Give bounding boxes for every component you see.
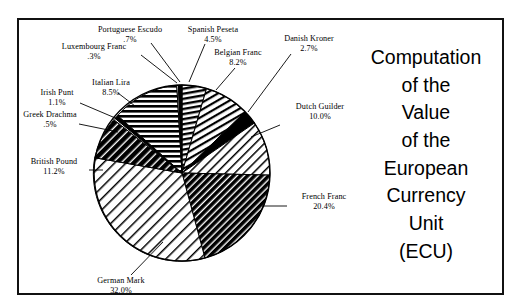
title-line-8: (ECU) <box>356 238 496 266</box>
callout-luxembourg-franc: Luxembourg Franc .3% <box>48 42 140 61</box>
callout-label: Dutch Guilder <box>296 102 344 111</box>
callout-value: 10.0% <box>284 112 356 122</box>
callout-value: 11.2% <box>21 167 87 177</box>
callout-italian-lira: Italian Lira 8.5% <box>85 78 137 97</box>
callout-german-mark: German Mark 32.0% <box>85 276 157 295</box>
callout-belgian-franc: Belgian Franc 8.2% <box>203 48 273 67</box>
callout-dutch-guilder: Dutch Guilder 10.0% <box>284 102 356 121</box>
callout-value: 32.0% <box>85 286 157 296</box>
title-line-2: of the <box>356 72 496 100</box>
callout-value: .5% <box>17 120 83 130</box>
callout-value: 8.2% <box>203 58 273 68</box>
leader-luxembourg-franc <box>141 55 177 83</box>
leader-belgian-franc <box>216 68 235 90</box>
callout-label: Italian Lira <box>92 78 130 87</box>
leader-portuguese-escudo <box>151 43 180 82</box>
callout-value: 2.7% <box>273 44 345 54</box>
callout-value: 1.1% <box>31 98 83 108</box>
callout-value: .3% <box>48 52 140 62</box>
title-line-3: Value <box>356 99 496 127</box>
callout-greek-drachma: Greek Drachma .5% <box>17 110 83 129</box>
title-line-7: Unit <box>356 210 496 238</box>
leader-irish-punt <box>80 103 120 120</box>
title-line-1: Computation <box>356 44 496 72</box>
chart-frame: Portuguese Escudo .7% Luxembourg Franc .… <box>17 18 504 295</box>
callout-label: Spanish Peseta <box>188 25 238 34</box>
callout-label: Luxembourg Franc <box>62 42 126 51</box>
callout-label: Belgian Franc <box>214 48 261 57</box>
callout-label: British Pound <box>31 157 78 166</box>
callout-label: Danish Kroner <box>284 34 334 43</box>
callout-label: French Franc <box>302 192 347 201</box>
title-line-4: of the <box>356 127 496 155</box>
callout-value: 4.5% <box>177 35 249 45</box>
callout-label: Irish Punt <box>40 88 73 97</box>
chart-title-block: Computation of the Value of the European… <box>356 44 496 266</box>
callout-british-pound: British Pound 11.2% <box>21 157 87 176</box>
callout-value: 20.4% <box>291 202 357 212</box>
callout-value: 8.5% <box>85 88 137 98</box>
callout-label: Greek Drachma <box>23 110 76 119</box>
title-line-6: Currency <box>356 182 496 210</box>
callout-french-franc: French Franc 20.4% <box>291 192 357 211</box>
callout-danish-kroner: Danish Kroner 2.7% <box>273 34 345 53</box>
callout-irish-punt: Irish Punt 1.1% <box>31 88 83 107</box>
callout-label: Portuguese Escudo <box>98 25 162 34</box>
pie-chart-area: Portuguese Escudo .7% Luxembourg Franc .… <box>19 20 379 293</box>
callout-label: German Mark <box>97 276 144 285</box>
title-line-5: European <box>356 155 496 183</box>
callout-spanish-peseta: Spanish Peseta 4.5% <box>177 25 249 44</box>
